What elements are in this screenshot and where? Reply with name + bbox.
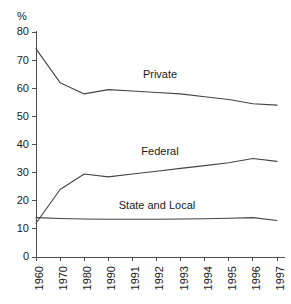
y-tick-label: 30 xyxy=(17,166,29,178)
y-tick-label: 80 xyxy=(17,25,29,37)
series-line-federal xyxy=(36,159,277,224)
series-label-state-and-local: State and Local xyxy=(119,199,195,211)
y-tick-label: 0 xyxy=(23,250,29,262)
x-tick-label: 1960 xyxy=(33,266,45,290)
series-label-private: Private xyxy=(143,68,177,80)
y-tick-label: 50 xyxy=(17,110,29,122)
series-label-federal: Federal xyxy=(141,145,178,157)
x-tick-label: 1970 xyxy=(57,266,69,290)
line-chart: 01020304050607080%1960197019801990199119… xyxy=(0,0,291,304)
x-tick-label: 1994 xyxy=(202,266,214,290)
x-tick-label: 1993 xyxy=(178,266,190,290)
y-tick-label: 70 xyxy=(17,54,29,66)
y-tick-label: 60 xyxy=(17,82,29,94)
x-tick-label: 1997 xyxy=(274,266,286,290)
x-tick-label: 1980 xyxy=(81,266,93,290)
x-tick-label: 1995 xyxy=(226,266,238,290)
x-tick-label: 1991 xyxy=(129,266,141,290)
series-line-state-and-local xyxy=(36,218,277,221)
y-tick-label: 10 xyxy=(17,222,29,234)
y-tick-label: 20 xyxy=(17,194,29,206)
x-tick-label: 1990 xyxy=(105,266,117,290)
y-axis-unit-label: % xyxy=(17,10,27,22)
chart-container: 01020304050607080%1960197019801990199119… xyxy=(0,0,291,304)
x-tick-label: 1996 xyxy=(250,266,262,290)
x-tick-label: 1992 xyxy=(153,266,165,290)
y-tick-label: 40 xyxy=(17,138,29,150)
